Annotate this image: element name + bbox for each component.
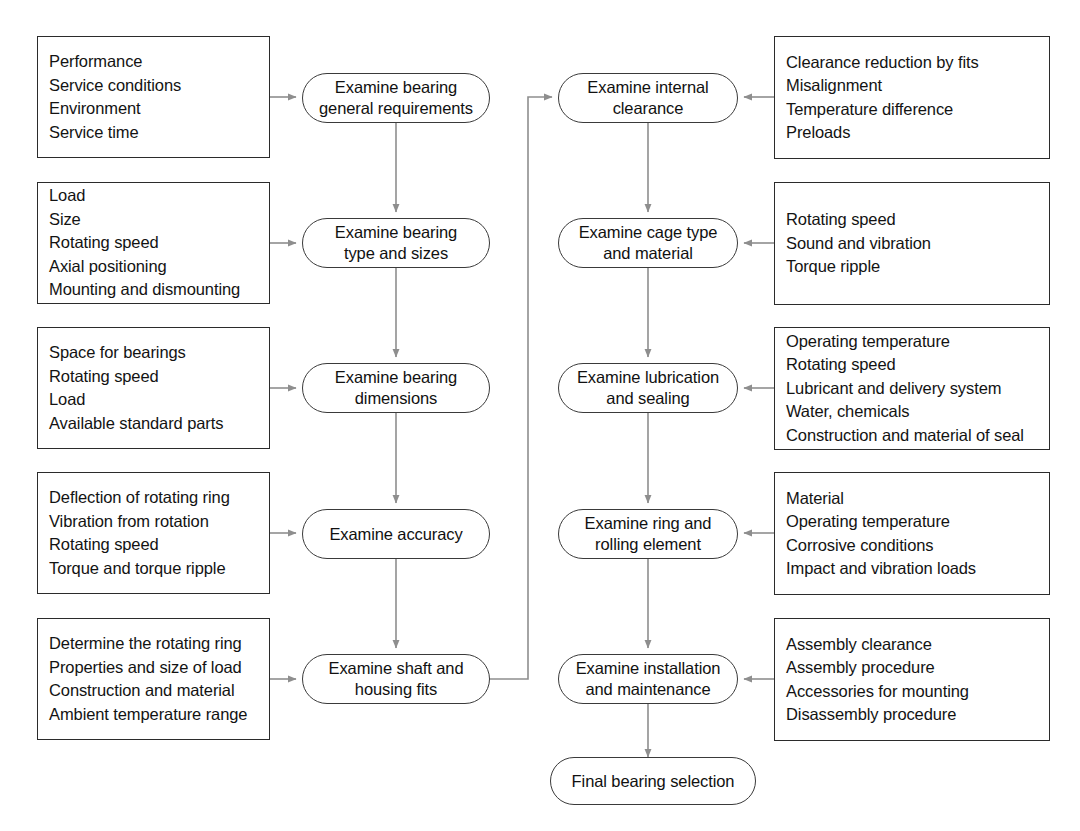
input-line: Corrosive conditions xyxy=(786,534,1038,558)
input-line: Size xyxy=(49,208,258,232)
node-label: Final bearing selection xyxy=(563,771,744,792)
input-line: Axial positioning xyxy=(49,255,258,279)
input-box-dimensions: Space for bearings Rotating speed Load A… xyxy=(37,327,270,449)
input-line: Sound and vibration xyxy=(786,232,1038,256)
arrow-bridge-left-to-right xyxy=(490,97,552,679)
input-line: Performance xyxy=(49,50,258,74)
node-label: Examine internal clearance xyxy=(578,77,717,119)
input-box-general-requirements: Performance Service conditions Environme… xyxy=(37,36,270,158)
input-box-cage-type-and-material: Rotating speed Sound and vibration Torqu… xyxy=(774,182,1050,305)
input-line: Misalignment xyxy=(786,74,1038,98)
input-line: Accessories for mounting xyxy=(786,680,1038,704)
node-examine-ring-and-rolling-element[interactable]: Examine ring and rolling element xyxy=(558,509,738,559)
input-line: Deflection of rotating ring xyxy=(49,486,258,510)
node-examine-internal-clearance[interactable]: Examine internal clearance xyxy=(558,73,738,123)
node-examine-bearing-dimensions[interactable]: Examine bearing dimensions xyxy=(302,363,490,413)
node-examine-shaft-and-housing-fits[interactable]: Examine shaft and housing fits xyxy=(302,654,490,704)
input-line: Disassembly procedure xyxy=(786,703,1038,727)
input-line: Temperature difference xyxy=(786,98,1038,122)
node-label: Examine accuracy xyxy=(320,524,471,545)
input-line: Rotating speed xyxy=(49,533,258,557)
input-line: Construction and material xyxy=(49,679,258,703)
input-box-installation-and-maintenance: Assembly clearance Assembly procedure Ac… xyxy=(774,618,1050,741)
input-line: Available standard parts xyxy=(49,412,258,436)
input-line: Ambient temperature range xyxy=(49,703,258,727)
input-line: Operating temperature xyxy=(786,510,1038,534)
node-label: Examine bearing dimensions xyxy=(326,367,466,409)
input-line: Rotating speed xyxy=(786,208,1038,232)
input-box-internal-clearance: Clearance reduction by fits Misalignment… xyxy=(774,36,1050,159)
input-line: Torque and torque ripple xyxy=(49,557,258,581)
node-examine-accuracy[interactable]: Examine accuracy xyxy=(302,509,490,559)
input-line: Assembly clearance xyxy=(786,633,1038,657)
input-line: Load xyxy=(49,184,258,208)
input-line: Mounting and dismounting xyxy=(49,278,258,302)
node-examine-installation-and-maintenance[interactable]: Examine installation and maintenance xyxy=(558,654,738,704)
input-line: Operating temperature xyxy=(786,330,1038,354)
node-label: Examine cage type and material xyxy=(570,222,727,264)
input-line: Vibration from rotation xyxy=(49,510,258,534)
input-line: Service time xyxy=(49,121,258,145)
input-line: Preloads xyxy=(786,121,1038,145)
input-line: Clearance reduction by fits xyxy=(786,51,1038,75)
node-label: Examine lubrication and sealing xyxy=(568,367,728,409)
node-examine-cage-type-and-material[interactable]: Examine cage type and material xyxy=(558,218,738,268)
node-examine-bearing-general-requirements[interactable]: Examine bearing general requirements xyxy=(302,73,490,123)
node-label: Examine shaft and housing fits xyxy=(320,658,473,700)
node-examine-lubrication-and-sealing[interactable]: Examine lubrication and sealing xyxy=(558,363,738,413)
input-line: Properties and size of load xyxy=(49,656,258,680)
input-line: Determine the rotating ring xyxy=(49,632,258,656)
input-line: Material xyxy=(786,487,1038,511)
input-box-type-and-sizes: Load Size Rotating speed Axial positioni… xyxy=(37,182,270,304)
node-label: Examine bearing type and sizes xyxy=(326,222,466,264)
input-line: Assembly procedure xyxy=(786,656,1038,680)
input-box-shaft-and-housing-fits: Determine the rotating ring Properties a… xyxy=(37,618,270,740)
node-examine-bearing-type-and-sizes[interactable]: Examine bearing type and sizes xyxy=(302,218,490,268)
input-line: Rotating speed xyxy=(49,365,258,389)
flowchart-canvas: Performance Service conditions Environme… xyxy=(0,0,1080,831)
input-box-accuracy: Deflection of rotating ring Vibration fr… xyxy=(37,472,270,594)
input-line: Environment xyxy=(49,97,258,121)
node-label: Examine ring and rolling element xyxy=(576,513,721,555)
input-line: Rotating speed xyxy=(786,353,1038,377)
input-line: Construction and material of seal xyxy=(786,424,1038,448)
input-line: Water, chemicals xyxy=(786,400,1038,424)
input-line: Rotating speed xyxy=(49,231,258,255)
node-label: Examine bearing general requirements xyxy=(310,77,482,119)
node-label: Examine installation and maintenance xyxy=(567,658,730,700)
input-line: Service conditions xyxy=(49,74,258,98)
node-final-bearing-selection[interactable]: Final bearing selection xyxy=(550,757,756,805)
input-line: Load xyxy=(49,388,258,412)
input-line: Impact and vibration loads xyxy=(786,557,1038,581)
input-box-lubrication-and-sealing: Operating temperature Rotating speed Lub… xyxy=(774,327,1050,450)
input-line: Torque ripple xyxy=(786,255,1038,279)
input-box-ring-and-rolling-element: Material Operating temperature Corrosive… xyxy=(774,472,1050,595)
input-line: Lubricant and delivery system xyxy=(786,377,1038,401)
input-line: Space for bearings xyxy=(49,341,258,365)
